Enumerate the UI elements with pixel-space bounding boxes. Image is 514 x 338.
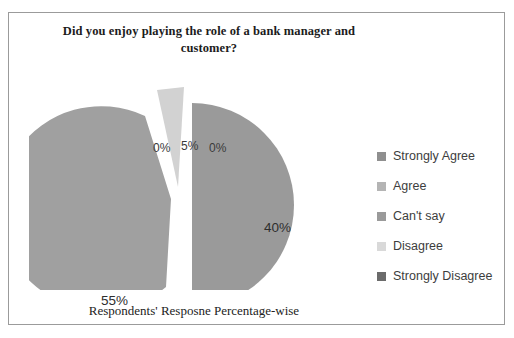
chart-legend: Strongly Agree Agree Can't say Disagree …	[377, 141, 514, 291]
legend-label: Can't say	[393, 209, 445, 223]
pie-slice-cant-say[interactable]	[29, 106, 171, 290]
legend-label: Agree	[393, 179, 426, 193]
chart-title: Did you enjoy playing the role of a bank…	[49, 23, 369, 57]
pie-chart-plot-area: 0% 5% 0% 40% 55%	[29, 65, 359, 290]
pie-slice-strongly-agree[interactable]	[192, 103, 294, 290]
legend-item-disagree[interactable]: Disagree	[377, 231, 514, 261]
pie-svg	[29, 65, 359, 290]
pie-label-agree: 5%	[181, 139, 198, 153]
legend-item-strongly-disagree[interactable]: Strongly Disagree	[377, 261, 514, 291]
pie-label-strongly-disagree: 0%	[209, 141, 226, 155]
chart-caption: Respondents' Resposne Percentage-wise	[59, 303, 329, 319]
legend-swatch-icon	[377, 182, 386, 191]
legend-item-cant-say[interactable]: Can't say	[377, 201, 514, 231]
pie-label-disagree: 0%	[153, 141, 170, 155]
legend-swatch-icon	[377, 242, 386, 251]
legend-item-agree[interactable]: Agree	[377, 171, 514, 201]
pie-label-strongly-agree: 40%	[264, 220, 291, 235]
chart-frame: Did you enjoy playing the role of a bank…	[8, 12, 505, 325]
legend-label: Disagree	[393, 239, 443, 253]
legend-swatch-icon	[377, 272, 386, 281]
legend-swatch-icon	[377, 152, 386, 161]
legend-item-strongly-agree[interactable]: Strongly Agree	[377, 141, 514, 171]
legend-swatch-icon	[377, 212, 386, 221]
legend-label: Strongly Agree	[393, 149, 475, 163]
legend-label: Strongly Disagree	[393, 269, 492, 283]
